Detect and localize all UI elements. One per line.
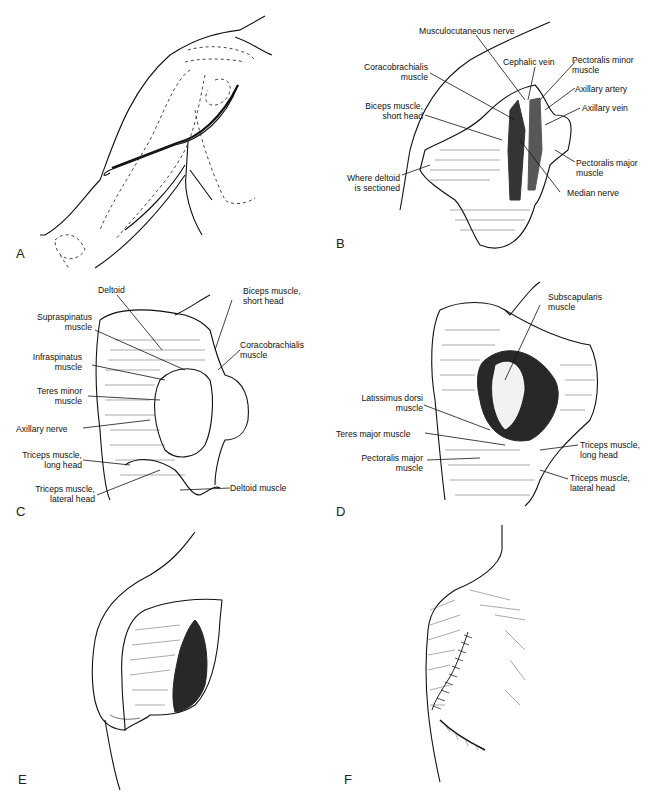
label-deltoid-muscle: Deltoid muscle xyxy=(230,483,286,493)
label-axillary-artery: Axillary artery xyxy=(575,84,627,94)
label-coracobrachialis: Coracobrachialis muscle xyxy=(240,340,304,360)
panel-a: A xyxy=(0,0,330,270)
label-cephalic-vein: Cephalic vein xyxy=(503,57,555,67)
label-pectoralis-major: Pectoralis major muscle xyxy=(340,453,423,473)
label-latissimus-dorsi: Latissimus dorsi muscle xyxy=(340,393,423,413)
label-triceps-lateral-head: Triceps muscle, lateral head xyxy=(20,484,95,504)
label-where-deltoid-sectioned: Where deltoid is sectioned xyxy=(330,173,400,193)
label-infraspinatus: Infraspinatus muscle xyxy=(20,352,82,372)
panel-b-illustration xyxy=(330,0,658,265)
label-biceps-short-head: Biceps muscle, short head xyxy=(358,101,423,121)
panel-letter-d: D xyxy=(336,504,345,519)
panel-letter-b: B xyxy=(336,236,345,251)
label-median-nerve: Median nerve xyxy=(567,188,619,198)
label-teres-major: Teres major muscle xyxy=(336,429,411,439)
panel-a-illustration xyxy=(0,0,330,270)
label-triceps-long-head: Triceps muscle, long head xyxy=(580,440,640,460)
label-biceps-short-head: Biceps muscle, short head xyxy=(243,286,301,306)
label-subscapularis: Subscapularis muscle xyxy=(548,292,602,312)
label-triceps-lateral-head: Triceps muscle, lateral head xyxy=(570,473,630,493)
panel-letter-a: A xyxy=(16,246,25,261)
panel-letter-f: F xyxy=(344,772,352,787)
panel-d: Subscapularis muscle Latissimus dorsi mu… xyxy=(330,270,658,525)
label-triceps-long-head: Triceps muscle, long head xyxy=(10,450,82,470)
label-teres-minor: Teres minor muscle xyxy=(20,386,82,406)
panel-b: Musculocutaneous nerve Cephalic vein Pec… xyxy=(330,0,658,265)
label-musculocutaneous-nerve: Musculocutaneous nerve xyxy=(419,26,515,36)
label-supraspinatus: Supraspinatus muscle xyxy=(20,312,92,332)
label-pectoralis-minor: Pectoralis minor muscle xyxy=(572,55,634,75)
label-coracobrachialis: Coracobrachialis muscle xyxy=(358,62,428,82)
label-pectoralis-major: Pectoralis major muscle xyxy=(576,158,638,178)
label-axillary-vein: Axillary vein xyxy=(582,103,628,113)
panel-c: Deltoid Biceps muscle, short head Supras… xyxy=(0,270,330,525)
label-axillary-nerve: Axillary nerve xyxy=(16,424,68,434)
panel-f-illustration xyxy=(330,520,658,800)
label-deltoid: Deltoid xyxy=(98,285,125,295)
panel-e-illustration xyxy=(0,520,330,800)
panel-e: E xyxy=(0,520,330,800)
panel-letter-c: C xyxy=(16,504,25,519)
panel-f: F xyxy=(330,520,658,800)
panel-letter-e: E xyxy=(18,772,27,787)
